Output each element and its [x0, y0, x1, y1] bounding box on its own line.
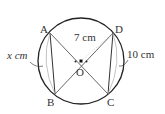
point-label-o: O — [76, 67, 84, 78]
angle-mark-left — [75, 61, 77, 63]
right-chord-label: 10 cm — [127, 49, 154, 60]
point-label-c: C — [107, 97, 114, 108]
point-label-b: B — [47, 97, 54, 108]
radius-label: 7 cm — [74, 32, 96, 43]
point-label-a: A — [40, 24, 48, 35]
left-chord-label: x cm — [7, 50, 27, 61]
pointer-left — [30, 62, 43, 67]
point-label-d: D — [115, 24, 123, 35]
center-point — [80, 60, 83, 63]
angle-mark-right — [86, 61, 88, 63]
